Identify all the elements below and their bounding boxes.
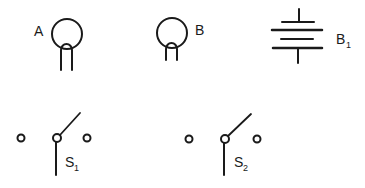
- switch-s1-label: S: [65, 154, 74, 170]
- battery-b1: B 1: [272, 9, 351, 63]
- switch-s2-right-terminal-icon: [254, 136, 261, 143]
- switch-s1-lever: [60, 113, 80, 135]
- bulb-b-filament-icon: [166, 43, 177, 60]
- switch-s2: S 2: [186, 114, 261, 175]
- switch-s2-left-terminal-icon: [186, 136, 193, 143]
- switch-s2-label: S: [234, 154, 243, 170]
- switch-s1-label-subscript: 1: [74, 163, 79, 173]
- switch-s1-right-terminal-icon: [84, 135, 91, 142]
- bulb-b-label: B: [195, 22, 204, 38]
- circuit-symbols-diagram: A B B 1 S 1 S 2: [0, 0, 365, 188]
- switch-s1: S 1: [18, 113, 91, 175]
- switch-s2-lever: [228, 114, 251, 136]
- switch-s2-label-subscript: 2: [243, 163, 248, 173]
- battery-label-subscript: 1: [346, 40, 351, 50]
- bulb-a-label: A: [34, 23, 44, 39]
- switch-s1-left-terminal-icon: [18, 135, 25, 142]
- bulb-a: A: [34, 19, 82, 70]
- battery-label: B: [336, 31, 345, 47]
- bulb-b: B: [157, 18, 204, 60]
